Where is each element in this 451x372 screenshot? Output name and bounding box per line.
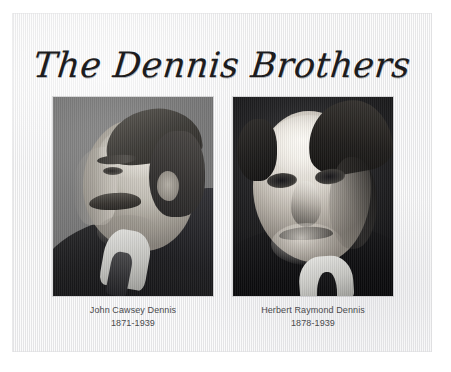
portrait-ear xyxy=(157,171,179,201)
caption-john-cawsey-dennis: John Cawsey Dennis 1871-1939 xyxy=(45,304,221,330)
portrait-nose xyxy=(291,181,321,227)
portrait-hair-side xyxy=(237,119,277,181)
clipped-text-below-card xyxy=(14,359,234,371)
clipped-text-above-card xyxy=(28,0,228,7)
caption-name: Herbert Raymond Dennis xyxy=(261,305,365,315)
scanned-photo-card: The Dennis Brothers xyxy=(12,13,432,352)
portrait-photo-john-cawsey-dennis xyxy=(53,97,213,296)
portrait-hair-side xyxy=(149,131,205,217)
page-canvas: The Dennis Brothers xyxy=(0,0,451,372)
caption-name: John Cawsey Dennis xyxy=(90,305,176,315)
page-title: The Dennis Brothers xyxy=(9,40,434,90)
caption-dates: 1871-1939 xyxy=(45,317,221,330)
caption-dates: 1878-1939 xyxy=(225,317,401,330)
portrait-photo-herbert-raymond-dennis xyxy=(233,97,393,296)
portrait-eye xyxy=(103,167,123,175)
caption-herbert-raymond-dennis: Herbert Raymond Dennis 1878-1939 xyxy=(225,304,401,330)
